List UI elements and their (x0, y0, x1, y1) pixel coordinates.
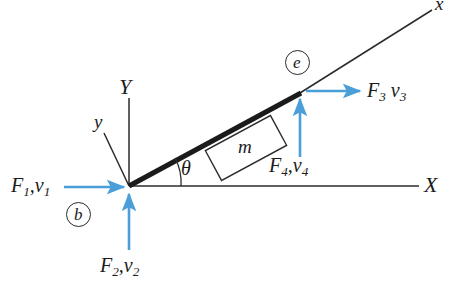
mass-label: m (238, 137, 252, 156)
node-label-b: b (74, 206, 83, 223)
force-index-F3: 3 (379, 89, 386, 104)
local-x-axis-line (300, 10, 432, 93)
force-index-F2: 2 (112, 264, 119, 279)
velocity-symbol-F4: v (293, 154, 302, 176)
force-symbol-F1: F (11, 174, 23, 196)
force-index-F4: 4 (281, 164, 288, 179)
velocity-symbol-F1: v (35, 174, 44, 196)
node-label-e: e (293, 54, 301, 71)
velocity-index-F1: 1 (44, 184, 51, 199)
global-x-axis-label: X (424, 174, 437, 196)
force-index-F1: 1 (23, 184, 30, 199)
force-label-F3: F3 v3 (367, 80, 406, 103)
diagram-canvas: b e X Y y x θ m F1,v1 F2,v2 F3 v3 F4,v4 (0, 0, 456, 293)
velocity-index-F4: 4 (302, 164, 309, 179)
global-y-axis-label: Y (119, 76, 131, 98)
velocity-index-F2: 2 (133, 264, 140, 279)
velocity-index-F3: 3 (400, 89, 407, 104)
local-x-axis-label: x (435, 0, 443, 13)
diagram-vector-layer (0, 0, 456, 293)
velocity-symbol-F2: v (124, 254, 133, 276)
velocity-symbol-F3: v (391, 79, 400, 101)
local-y-axis-label: y (94, 112, 102, 131)
force-symbol-F3: F (367, 79, 379, 101)
local-y-axis-line (104, 133, 129, 186)
force-symbol-F2: F (100, 254, 112, 276)
force-label-F1: F1,v1 (11, 175, 50, 198)
force-label-F2: F2,v2 (100, 255, 139, 278)
force-symbol-F4: F (269, 154, 281, 176)
theta-angle-label: θ (181, 158, 191, 178)
force-label-F4: F4,v4 (269, 155, 308, 178)
